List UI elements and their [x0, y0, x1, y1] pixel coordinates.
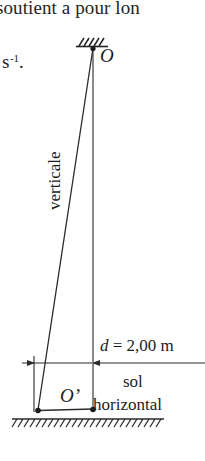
ground-hatching-icon [12, 419, 161, 427]
distance-symbol: d [100, 336, 109, 355]
ground-label-line2: horizontal [93, 396, 162, 413]
bob-label: O’ [60, 386, 80, 405]
pivot-label: O [100, 46, 114, 65]
bob-marker [35, 408, 41, 414]
distance-value: = 2,00 m [113, 336, 174, 355]
bob-to-foot-line [38, 409, 93, 411]
distance-dimension-line [22, 360, 205, 366]
figure-page: soutient a pour lon s-1. [0, 0, 205, 461]
distance-label: d = 2,00 m [100, 337, 174, 354]
ground-line [12, 419, 164, 427]
pendulum-diagram [0, 0, 205, 461]
pivot-point-marker [90, 46, 95, 51]
vertical-line-label: verticale [46, 151, 63, 210]
pendulum-rod [38, 48, 93, 410]
ground-label-line1: sol [123, 373, 143, 390]
